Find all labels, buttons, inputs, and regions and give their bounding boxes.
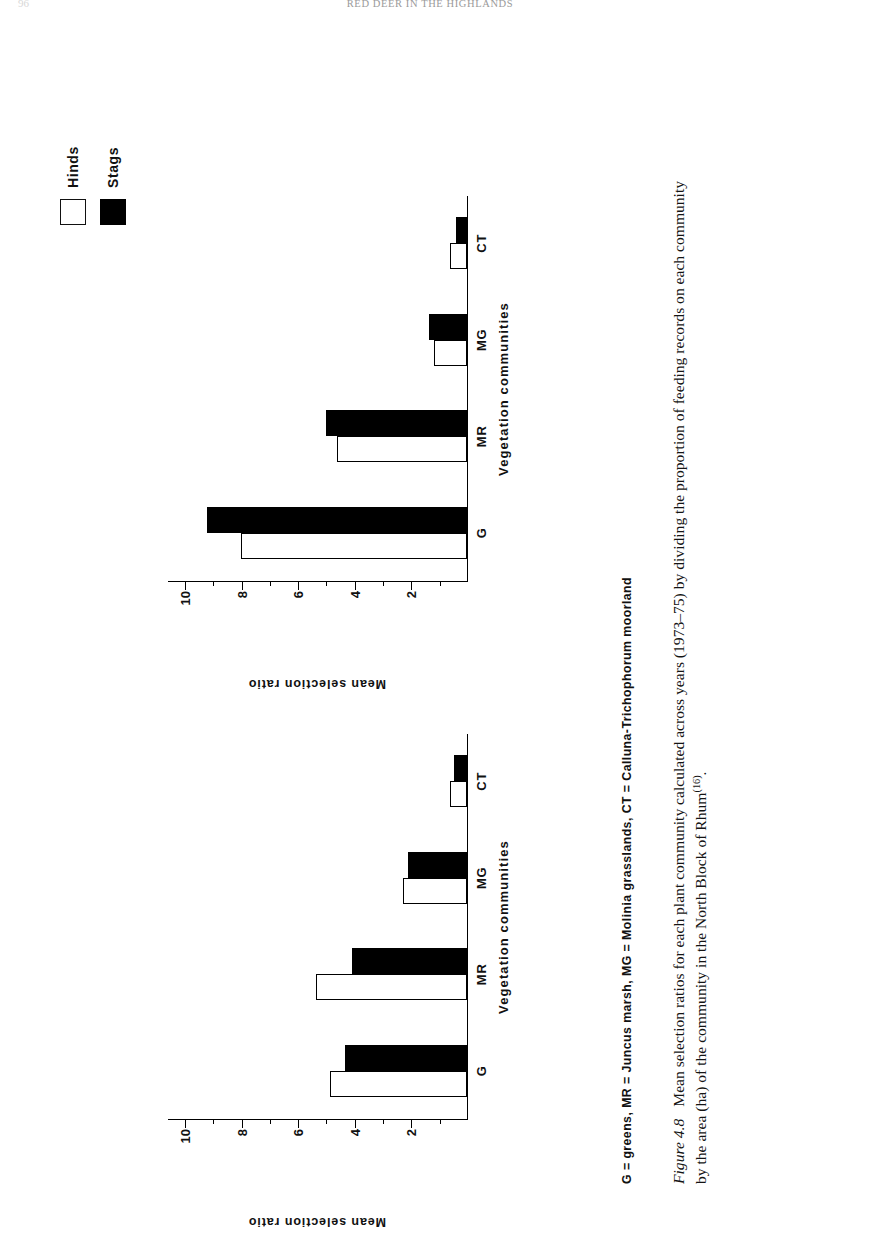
x-axis-tick-label: MR (474, 408, 489, 464)
bar-group (326, 410, 468, 462)
y-axis-minor-tick (213, 1119, 214, 1124)
x-axis-tick-label: MR (474, 946, 489, 1002)
y-axis-tick-label: 2 (404, 591, 419, 613)
y-axis-tick-label: 10 (177, 1129, 192, 1151)
bar-hinds-mr (316, 974, 467, 1000)
caption-terminator: . (692, 771, 709, 775)
y-axis-tick (185, 1119, 186, 1128)
bar-stags-mr (352, 948, 467, 974)
y-axis-title-top: Mean selection ratio (187, 677, 447, 691)
rotated-page-content: Hinds Stags 246810GMRMGCT Mean selection… (0, 0, 884, 1260)
y-axis-tick-label: 10 (177, 591, 192, 613)
figure-number: Figure 4.8 (670, 1119, 687, 1184)
figure-caption: Figure 4.8Mean selection ratios for each… (668, 172, 712, 1184)
bar-stags-mg (429, 314, 467, 340)
y-axis-tick (242, 1119, 243, 1128)
y-axis-tick (355, 581, 356, 590)
plot-area-top: 246810GMRMGCT (168, 196, 468, 582)
x-axis-tick-label: CT (474, 753, 489, 809)
bar-hinds-ct (450, 781, 467, 807)
y-axis-minor-tick (440, 581, 441, 586)
x-axis-tick-label: MG (474, 312, 489, 368)
bar-stags-g (345, 1045, 467, 1071)
bar-stags-g (207, 507, 467, 533)
y-axis-minor-tick (383, 1119, 384, 1124)
bar-group (330, 1045, 467, 1097)
bar-group (403, 852, 467, 904)
legend-item-hinds: Hinds (60, 146, 86, 225)
y-axis-tick-label: 6 (291, 1129, 306, 1151)
y-axis-minor-tick (270, 581, 271, 586)
legend-item-stags: Stags (100, 146, 126, 225)
bar-group (207, 507, 467, 559)
bar-group (316, 948, 467, 1000)
y-axis-minor-tick (326, 1119, 327, 1124)
bar-group (450, 217, 467, 269)
bar-hinds-mr (337, 436, 467, 462)
y-axis-tick-label: 4 (347, 1129, 362, 1151)
bar-stags-mg (408, 852, 467, 878)
y-axis-tick-label: 8 (234, 1129, 249, 1151)
y-axis-minor-tick (383, 581, 384, 586)
y-axis-tick (411, 581, 412, 590)
bar-stags-ct (454, 755, 467, 781)
y-axis-tick (411, 1119, 412, 1128)
y-axis-tick-label: 2 (404, 1129, 419, 1151)
y-axis-minor-tick (213, 581, 214, 586)
plot-area-bottom: 246810GMRMGCT (168, 734, 468, 1120)
y-axis-tick (298, 581, 299, 590)
legend-label-stags: Stags (105, 147, 121, 188)
y-axis-tick (185, 581, 186, 590)
legend-swatch-hinds-icon (60, 199, 86, 225)
bar-chart-bottom: 246810GMRMGCT Mean selection ratio Veget… (160, 714, 620, 1184)
x-axis-tick-label: CT (474, 215, 489, 271)
y-axis-tick-label: 8 (234, 591, 249, 613)
y-axis-tick (242, 581, 243, 590)
bar-stags-ct (456, 217, 467, 243)
x-axis-tick-label: MG (474, 850, 489, 906)
x-axis-title-bottom: Vegetation communities (496, 734, 511, 1120)
y-axis-tick (355, 1119, 356, 1128)
y-axis-tick-label: 4 (347, 591, 362, 613)
x-axis-title-top: Vegetation communities (496, 196, 511, 582)
x-axis-tick-label: G (474, 1043, 489, 1099)
abbreviation-key: G = greens, MR = Juncus marsh, MG = Moli… (620, 174, 634, 1184)
bar-hinds-mg (403, 878, 467, 904)
bar-hinds-g (241, 533, 467, 559)
legend-swatch-stags-icon (100, 199, 126, 225)
bar-group (450, 755, 467, 807)
bar-chart-top: 246810GMRMGCT Mean selection ratio Veget… (160, 176, 620, 646)
bar-hinds-ct (450, 243, 467, 269)
bar-hinds-mg (434, 340, 467, 366)
bar-hinds-g (330, 1071, 467, 1097)
y-axis-minor-tick (270, 1119, 271, 1124)
figure-reference: (16) (691, 775, 702, 792)
bar-group (429, 314, 467, 366)
chart-legend: Hinds Stags (60, 146, 126, 225)
legend-label-hinds: Hinds (65, 146, 81, 188)
y-axis-tick-label: 6 (291, 591, 306, 613)
y-axis-minor-tick (326, 581, 327, 586)
figure-caption-text: Mean selection ratios for each plant com… (670, 181, 709, 1184)
x-axis-tick-label: G (474, 505, 489, 561)
y-axis-tick (298, 1119, 299, 1128)
y-axis-title-bottom: Mean selection ratio (187, 1215, 447, 1229)
y-axis-minor-tick (440, 1119, 441, 1124)
bar-stags-mr (326, 410, 468, 436)
